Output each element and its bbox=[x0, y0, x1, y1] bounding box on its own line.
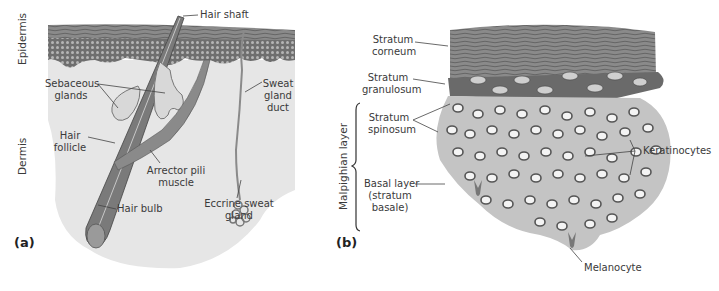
stratum-spinosum-label: Stratum spinosum bbox=[368, 112, 410, 136]
arrector-line-1: Arrector pili bbox=[145, 165, 207, 177]
malpighian-bracket bbox=[352, 103, 360, 231]
follicle-line-2: follicle bbox=[52, 142, 88, 154]
dermis-side-label: Dermis bbox=[16, 138, 28, 175]
stratum-corneum-label: Stratum corneum bbox=[372, 34, 414, 58]
hair-bulb-shape bbox=[87, 224, 105, 248]
follicle-line-1: Hair bbox=[52, 130, 88, 142]
skin-cross-section-illustration bbox=[0, 0, 719, 291]
sweat-line-1: Sweat bbox=[262, 78, 294, 90]
panel-a-label: (a) bbox=[14, 235, 35, 250]
panel-b-label: (b) bbox=[336, 235, 357, 250]
hair-follicle-label: Hair follicle bbox=[52, 130, 88, 154]
stratum-granulosum-label: Stratum granulosum bbox=[362, 72, 414, 96]
basal-line-3: basale) bbox=[364, 202, 416, 214]
hair-shaft-label: Hair shaft bbox=[200, 9, 249, 21]
melanocyte-label: Melanocyte bbox=[584, 262, 642, 274]
sweat-gland-duct-label: Sweat gland duct bbox=[262, 78, 294, 114]
eccrine-line-1: Eccrine sweat bbox=[204, 198, 274, 210]
basal-line-1: Basal layer bbox=[364, 178, 416, 190]
eccrine-line-2: gland bbox=[204, 210, 274, 222]
sweat-line-2: gland bbox=[262, 90, 294, 102]
arrector-pili-label: Arrector pili muscle bbox=[145, 165, 207, 189]
basal-layer-label: Basal layer (stratum basale) bbox=[364, 178, 416, 214]
spinosum-line-1: Stratum bbox=[368, 112, 410, 124]
malpighian-side-label: Malpighian layer bbox=[337, 123, 349, 210]
spinosum-line-2: spinosum bbox=[368, 124, 410, 136]
sebaceous-line-1: Sebaceous bbox=[45, 78, 97, 90]
arrector-line-2: muscle bbox=[145, 177, 207, 189]
basal-line-2: (stratum bbox=[364, 190, 416, 202]
granulosum-line-2: granulosum bbox=[362, 84, 414, 96]
corneum-line-2: corneum bbox=[372, 46, 414, 58]
eccrine-gland-label: Eccrine sweat gland bbox=[204, 198, 274, 222]
hair-bulb-label: Hair bulb bbox=[117, 203, 163, 215]
keratinocytes-label: Keratinocytes bbox=[643, 145, 711, 157]
epidermis-side-label: Epidermis bbox=[16, 13, 28, 65]
sebaceous-line-2: glands bbox=[45, 90, 97, 102]
corneum-line-1: Stratum bbox=[372, 34, 414, 46]
sebaceous-glands-label: Sebaceous glands bbox=[45, 78, 97, 102]
granulosum-line-1: Stratum bbox=[362, 72, 414, 84]
sweat-line-3: duct bbox=[262, 102, 294, 114]
